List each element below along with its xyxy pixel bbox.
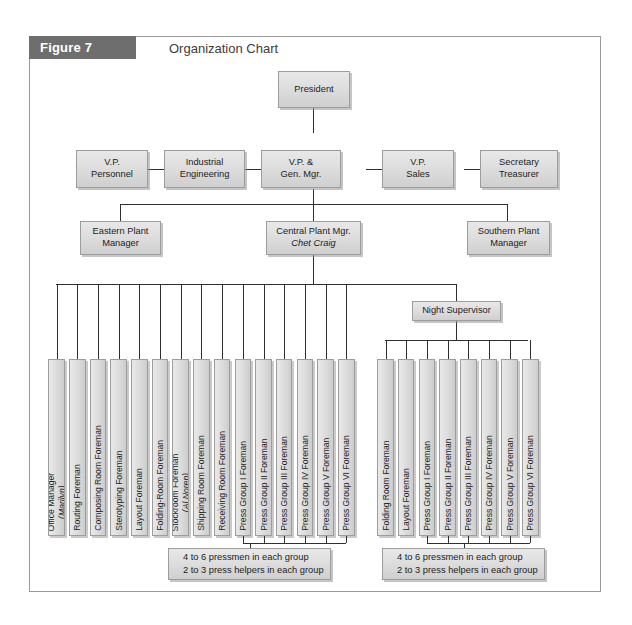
- right-foreman-box[interactable]: Press Group I Foreman: [419, 359, 436, 536]
- connector-eastern-down: [120, 204, 121, 221]
- connector-row2-b: [245, 169, 261, 170]
- left-foreman-label: Press Group V Foreman: [320, 438, 331, 531]
- node-southern-plant-manager-label: Southern Plant Manager: [478, 226, 540, 250]
- connector-drop: [264, 284, 265, 359]
- right-foreman-box[interactable]: Press Group VI Foreman: [522, 359, 539, 536]
- connector-night-supervisor-down: [456, 284, 457, 301]
- note-right-line-2: 2 to 3 press helpers in each group: [397, 564, 538, 577]
- left-foreman-label: Press Group IV Foreman: [299, 435, 310, 531]
- note-left-line-2: 2 to 3 press helpers in each group: [183, 564, 324, 577]
- left-foreman-label: Press Group III Foreman: [279, 436, 290, 531]
- node-industrial-engineering[interactable]: Industrial Engineering: [164, 150, 245, 188]
- node-vp-sales[interactable]: V.P. Sales: [382, 150, 454, 188]
- right-press-gather-bar: [427, 543, 531, 544]
- left-foreman-label: Sterotyping Foreman: [113, 451, 124, 531]
- connector-drop: [119, 284, 120, 359]
- connector-drop: [57, 284, 58, 359]
- left-foreman-label: Folding-Room Foreman: [155, 440, 166, 531]
- node-central-plant-manager-label: Central Plant Mgr. Chet Craig: [276, 226, 350, 250]
- left-foreman-box[interactable]: Press Group IV Foreman: [297, 359, 314, 536]
- node-vp-gen-mgr[interactable]: V.P. & Gen. Mgr.: [261, 150, 341, 188]
- left-foreman-box[interactable]: Composing Room Foreman: [90, 359, 107, 536]
- right-foreman-label: Press Group IV Foreman: [484, 435, 495, 531]
- left-foreman-box[interactable]: Layout Foreman: [131, 359, 148, 536]
- line-2: Gen. Mgr.: [281, 169, 322, 179]
- left-foreman-box[interactable]: Folding-Room Foreman: [152, 359, 169, 536]
- connector-genmgr-down: [313, 189, 314, 221]
- node-eastern-plant-manager-label: Eastern Plant Manager: [93, 226, 149, 250]
- connector-drop: [77, 284, 78, 359]
- right-foreman-box[interactable]: Layout Foreman: [398, 359, 415, 536]
- connector-drop: [139, 284, 140, 359]
- left-foreman-box[interactable]: Press Group VI Foreman: [338, 359, 355, 536]
- right-foreman-box[interactable]: Press Group III Foreman: [460, 359, 477, 536]
- connector-row2-a: [148, 169, 164, 170]
- line-2: Sales: [406, 169, 429, 179]
- right-foreman-box[interactable]: Press Group IV Foreman: [481, 359, 498, 536]
- left-foreman-box[interactable]: Sterotyping Foreman: [110, 359, 127, 536]
- node-secretary-treasurer-label: Secretary Treasurer: [499, 157, 539, 181]
- left-foreman-box[interactable]: Stockroom Foreman(Al Noren): [172, 359, 189, 536]
- right-foreman-box[interactable]: Press Group II Foreman: [439, 359, 456, 536]
- left-foreman-label: Layout Foreman: [134, 468, 145, 531]
- connector-drop: [305, 284, 306, 359]
- line-1: Southern Plant: [478, 226, 540, 236]
- node-southern-plant-manager[interactable]: Southern Plant Manager: [467, 221, 550, 255]
- left-press-gather-bar: [243, 543, 347, 544]
- left-foreman-label: Routing Foreman: [72, 465, 83, 531]
- connector-press-stub: [284, 536, 285, 543]
- left-foreman-box[interactable]: Shipping Room Foreman: [193, 359, 210, 536]
- right-foreman-label: Folding Room Foreman: [380, 441, 391, 531]
- connector-press-stub: [530, 536, 531, 543]
- left-foreman-label: Press Group II Foreman: [258, 439, 269, 531]
- connector-press-stub: [243, 536, 244, 543]
- left-foreman-box[interactable]: Press Group I Foreman: [235, 359, 252, 536]
- right-foreman-box[interactable]: Folding Room Foreman: [377, 359, 394, 536]
- connector-drop: [326, 284, 327, 359]
- left-foreman-label: Shipping Room Foreman: [196, 435, 207, 531]
- connector-foreman-bus: [56, 284, 456, 285]
- left-foreman-box[interactable]: Office Manager(Marilyn): [48, 359, 65, 536]
- connector-drop: [406, 340, 407, 359]
- connector-press-stub: [510, 536, 511, 543]
- connector-press-stub: [346, 536, 347, 543]
- connector-press-stub: [305, 536, 306, 543]
- node-night-supervisor[interactable]: Night Supervisor: [412, 301, 501, 321]
- node-secretary-treasurer[interactable]: Secretary Treasurer: [480, 150, 558, 188]
- organization-chart: President V.P. Personnel Industrial Engi…: [30, 59, 600, 591]
- connector-press-stub: [427, 536, 428, 543]
- left-foreman-box[interactable]: Receiving Room Foreman: [214, 359, 231, 536]
- connector-row2-d: [464, 169, 480, 170]
- connector-drop: [181, 284, 182, 359]
- node-night-supervisor-label: Night Supervisor: [422, 305, 491, 317]
- connector-drop: [160, 284, 161, 359]
- line-1: Central Plant Mgr.: [276, 226, 350, 236]
- line-2: Manager: [102, 238, 139, 248]
- line-1: Secretary: [499, 157, 539, 167]
- node-eastern-plant-manager[interactable]: Eastern Plant Manager: [80, 221, 161, 255]
- left-foreman-box[interactable]: Press Group II Foreman: [255, 359, 272, 536]
- node-vp-personnel[interactable]: V.P. Personnel: [76, 150, 148, 188]
- figure-header: Figure 7 Organization Chart: [29, 36, 601, 59]
- right-foreman-box[interactable]: Press Group V Foreman: [501, 359, 518, 536]
- node-president-label: President: [294, 84, 333, 96]
- connector-press-stub: [326, 536, 327, 543]
- connector-drop: [346, 284, 347, 359]
- connector-southern-down: [507, 204, 508, 221]
- right-foreman-label: Layout Foreman: [401, 468, 412, 531]
- connector-drop: [284, 284, 285, 359]
- manager-name: Chet Craig: [291, 238, 335, 248]
- connector-plant-bus: [120, 204, 507, 205]
- left-foreman-box[interactable]: Press Group V Foreman: [317, 359, 334, 536]
- line-2: Treasurer: [499, 169, 539, 179]
- connector-night-sub-down: [456, 321, 457, 340]
- node-president[interactable]: President: [278, 71, 350, 108]
- figure-title-label: Organization Chart: [136, 36, 601, 59]
- connector-drop: [201, 284, 202, 359]
- left-foreman-box[interactable]: Press Group III Foreman: [276, 359, 293, 536]
- left-foreman-box[interactable]: Routing Foreman: [69, 359, 86, 536]
- connector-drop: [222, 284, 223, 359]
- node-central-plant-manager[interactable]: Central Plant Mgr. Chet Craig: [266, 221, 361, 255]
- connector-press-stub: [489, 536, 490, 543]
- foreman-person-name: (Marilyn): [57, 472, 65, 531]
